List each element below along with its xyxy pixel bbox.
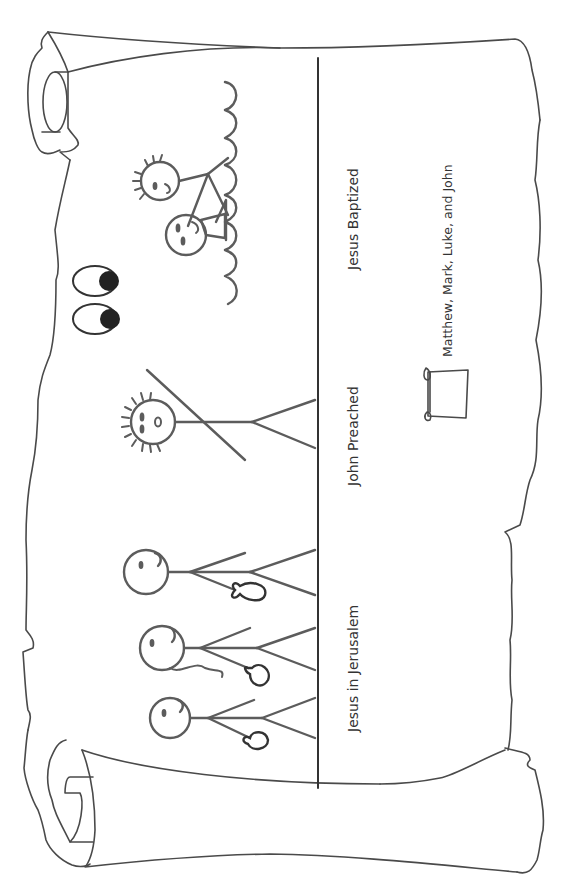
label-jesus-in-jerusalem: Jesus in Jerusalem xyxy=(345,605,361,732)
figures-jesus-in-jerusalem xyxy=(124,550,315,749)
scroll-outline xyxy=(23,32,543,873)
watching-eyes xyxy=(73,266,120,334)
figure-john-preached xyxy=(122,370,315,460)
scroll-icon xyxy=(424,368,468,420)
label-jesus-baptized: Jesus Baptized xyxy=(345,168,361,270)
scroll-illustration xyxy=(0,0,570,895)
label-john-preached: John Preached xyxy=(345,386,361,486)
figure-jesus-baptized xyxy=(133,82,237,304)
legend-text: Matthew, Mark, Luke, and John xyxy=(440,164,455,357)
